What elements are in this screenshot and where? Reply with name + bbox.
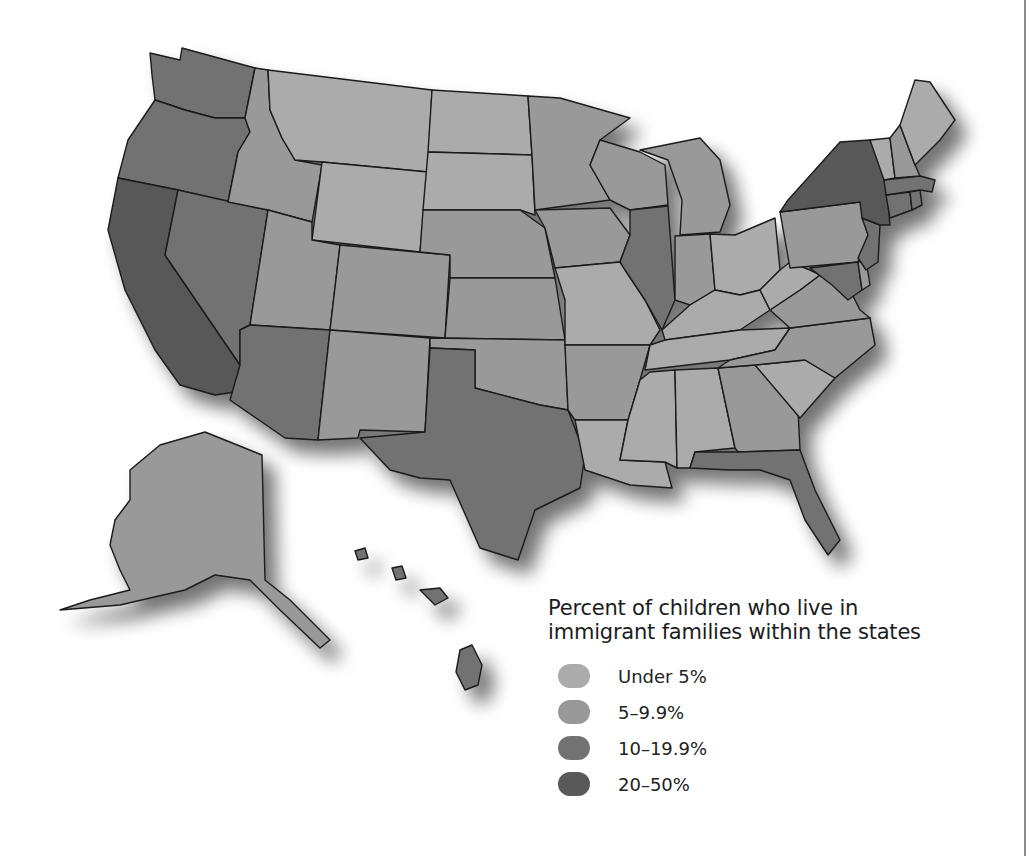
state-wyoming [312, 162, 428, 252]
legend-label: 20–50% [618, 774, 690, 795]
state-rhode-island [910, 190, 922, 210]
state-hawaii-big-island [456, 645, 482, 690]
state-kansas [445, 278, 565, 340]
legend-swatch-icon [558, 736, 590, 760]
state-alaska [60, 432, 330, 648]
state-hawaii-oahu [392, 566, 406, 580]
legend-item-5to9: 5–9.9% [558, 694, 948, 730]
legend-title: Percent of children who live in immigran… [548, 596, 948, 644]
state-pennsylvania [780, 202, 868, 268]
state-hawaii-maui [420, 588, 448, 605]
legend-swatch-icon [558, 772, 590, 796]
legend-label: 10–19.9% [618, 738, 707, 759]
page-edge-divider [1024, 0, 1026, 856]
state-florida [690, 450, 840, 555]
legend-item-20to50: 20–50% [558, 766, 948, 802]
legend: Percent of children who live in immigran… [548, 596, 948, 802]
legend-item-under5: Under 5% [558, 658, 948, 694]
legend-label: Under 5% [618, 666, 707, 687]
state-north-dakota [428, 90, 532, 155]
state-new-mexico [318, 330, 430, 440]
state-hawaii-kauai [355, 548, 368, 560]
state-south-dakota [423, 152, 535, 215]
legend-swatch-icon [558, 664, 590, 688]
state-montana [268, 70, 432, 172]
state-colorado [330, 245, 450, 338]
legend-title-line1: Percent of children who live in [548, 596, 948, 620]
state-arizona [230, 325, 330, 440]
legend-swatch-icon [558, 700, 590, 724]
state-connecticut [886, 192, 912, 218]
legend-item-10to19: 10–19.9% [558, 730, 948, 766]
legend-label: 5–9.9% [618, 702, 684, 723]
legend-items: Under 5% 5–9.9% 10–19.9% 20–50% [558, 658, 948, 802]
legend-title-line2: immigrant families within the states [548, 620, 948, 644]
